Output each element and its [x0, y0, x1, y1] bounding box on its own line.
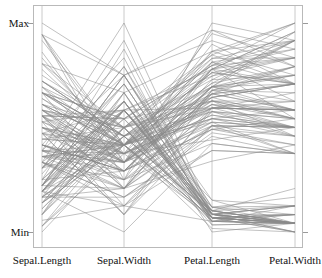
y-axis-max-label: Max — [9, 17, 30, 29]
y-axis-min-label: Min — [11, 226, 30, 238]
data-lines-group — [42, 23, 295, 232]
pcp-svg-canvas: Max Min Sepal.LengthSepal.WidthPetal.Len… — [0, 0, 322, 278]
dimension-labels-group: Sepal.LengthSepal.WidthPetal.LengthPetal… — [13, 254, 322, 266]
parallel-coordinates-plot: Max Min Sepal.LengthSepal.WidthPetal.Len… — [0, 0, 322, 278]
dimension-label-petal-width: Petal.Width — [269, 254, 321, 266]
data-line — [42, 30, 295, 75]
dimension-label-petal-length: Petal.Length — [184, 254, 240, 266]
dimension-label-sepal-length: Sepal.Length — [13, 254, 72, 266]
dimension-label-sepal-width: Sepal.Width — [97, 254, 152, 266]
